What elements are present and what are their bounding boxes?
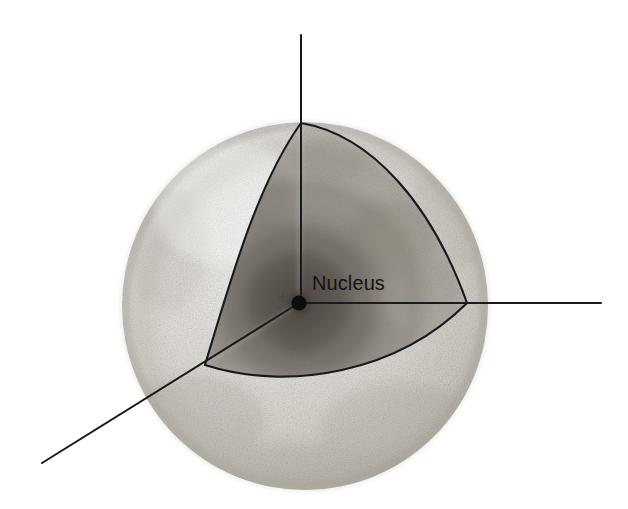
atom-diagram-figure: Nucleus	[0, 0, 628, 509]
atom-illustration-svg: Nucleus	[0, 0, 628, 509]
nucleus-label: Nucleus	[312, 272, 385, 294]
nucleus-marker	[288, 292, 310, 314]
nucleus-dot	[292, 296, 307, 311]
